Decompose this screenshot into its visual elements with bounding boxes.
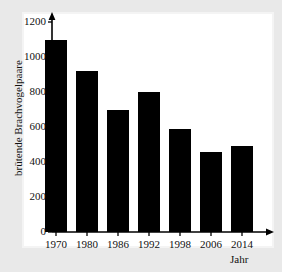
bar-chart-figure: 020040060080010001200 197019801986199219… xyxy=(0,0,282,272)
x-axis-tick-labels: 1970198019861992199820062014 xyxy=(0,0,282,272)
y-axis-title: brütende Brachvogelpaare xyxy=(12,38,24,198)
x-tick-label-2014: 2014 xyxy=(222,238,262,250)
x-axis-title: Jahr xyxy=(230,253,248,265)
